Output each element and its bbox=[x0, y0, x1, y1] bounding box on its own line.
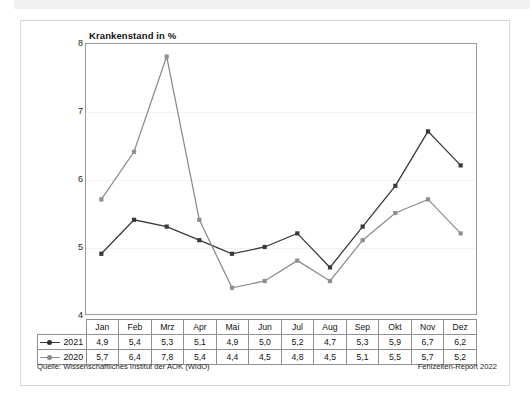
cell-2021-Mai: 4,9 bbox=[216, 335, 249, 350]
col-header-Apr: Apr bbox=[184, 320, 217, 335]
col-header-Sep: Sep bbox=[346, 320, 379, 335]
marker-2020-Mai bbox=[230, 286, 234, 290]
marker-2021-Apr bbox=[197, 238, 201, 242]
cell-2021-Sep: 5,3 bbox=[346, 335, 379, 350]
col-header-Jul: Jul bbox=[281, 320, 314, 335]
cell-2021-Feb: 5,4 bbox=[119, 335, 152, 350]
screenshot-root: Krankenstand in % 45678 JanFebMrzAprMaiJ… bbox=[0, 0, 532, 407]
marker-2020-Feb bbox=[132, 150, 136, 154]
y-tick-7: 7 bbox=[61, 106, 83, 116]
marker-2020-Dez bbox=[459, 231, 463, 235]
cell-2021-Nov: 6,7 bbox=[411, 335, 444, 350]
data-table: JanFebMrzAprMaiJunJulAugSepOktNovDez 202… bbox=[37, 319, 477, 365]
chart-title: Krankenstand in % bbox=[89, 30, 176, 41]
cell-2021-Dez: 6,2 bbox=[444, 335, 477, 350]
marker-2021-Mai bbox=[230, 252, 234, 256]
col-header-Aug: Aug bbox=[314, 320, 347, 335]
marker-2020-Aug bbox=[328, 279, 332, 283]
cell-2021-Mrz: 5,3 bbox=[151, 335, 184, 350]
table-row: 20214,95,45,35,14,95,05,24,75,35,96,76,2 bbox=[38, 335, 477, 350]
marker-2020-Jun bbox=[263, 279, 267, 283]
marker-2020-Nov bbox=[426, 197, 430, 201]
col-header-Mai: Mai bbox=[216, 320, 249, 335]
marker-2020-Okt bbox=[393, 211, 397, 215]
col-header-Mrz: Mrz bbox=[151, 320, 184, 335]
marker-2021-Mrz bbox=[165, 225, 169, 229]
figure-footer: Quelle: Wissenschaftliches Institut der … bbox=[37, 362, 497, 376]
marker-2021-Jul bbox=[295, 231, 299, 235]
marker-2021-Feb bbox=[132, 218, 136, 222]
col-header-Nov: Nov bbox=[411, 320, 444, 335]
series-line-2021 bbox=[101, 131, 460, 267]
table-corner-cell bbox=[38, 320, 87, 335]
col-header-Okt: Okt bbox=[379, 320, 412, 335]
source-note: Quelle: Wissenschaftliches Institut der … bbox=[37, 362, 210, 371]
y-tick-6: 6 bbox=[61, 174, 83, 184]
plot-area bbox=[85, 43, 477, 315]
cell-2021-Okt: 5,9 bbox=[379, 335, 412, 350]
report-note: Fehlzeiten-Report 2022 bbox=[418, 362, 497, 371]
legend-row-2021[interactable]: 2021 bbox=[38, 335, 87, 350]
cell-2021-Jun: 5,0 bbox=[249, 335, 282, 350]
chart-lines bbox=[85, 43, 477, 315]
marker-2021-Jan bbox=[99, 252, 103, 256]
marker-2020-Apr bbox=[197, 218, 201, 222]
marker-2020-Jan bbox=[99, 197, 103, 201]
table-header-row: JanFebMrzAprMaiJunJulAugSepOktNovDez bbox=[38, 320, 477, 335]
marker-2020-Mrz bbox=[165, 55, 169, 59]
col-header-Jun: Jun bbox=[249, 320, 282, 335]
marker-2021-Sep bbox=[361, 225, 365, 229]
y-axis-tick-labels: 45678 bbox=[61, 43, 83, 315]
marker-2020-Jul bbox=[295, 259, 299, 263]
cell-2021-Jan: 4,9 bbox=[86, 335, 119, 350]
cell-2021-Aug: 4,7 bbox=[314, 335, 347, 350]
legend-marker-icon-2021 bbox=[40, 338, 60, 346]
col-header-Feb: Feb bbox=[119, 320, 152, 335]
data-table-wrap: JanFebMrzAprMaiJunJulAugSepOktNovDez 202… bbox=[37, 319, 477, 365]
y-tick-5: 5 bbox=[61, 242, 83, 252]
series-line-2020 bbox=[101, 57, 460, 288]
figure-card: Krankenstand in % 45678 JanFebMrzAprMaiJ… bbox=[20, 20, 510, 386]
legend-label-2021: 2021 bbox=[63, 337, 83, 347]
table-body: 20214,95,45,35,14,95,05,24,75,35,96,76,2… bbox=[38, 335, 477, 365]
y-tick-8: 8 bbox=[61, 38, 83, 48]
marker-2021-Okt bbox=[393, 184, 397, 188]
cell-2021-Apr: 5,1 bbox=[184, 335, 217, 350]
marker-2021-Jun bbox=[263, 245, 267, 249]
legend-marker-icon-2020 bbox=[40, 353, 60, 361]
marker-2021-Aug bbox=[328, 265, 332, 269]
marker-2020-Sep bbox=[361, 238, 365, 242]
col-header-Dez: Dez bbox=[444, 320, 477, 335]
page-top-strip bbox=[14, 0, 530, 9]
legend-label-2020: 2020 bbox=[63, 352, 83, 362]
cell-2021-Jul: 5,2 bbox=[281, 335, 314, 350]
marker-2021-Dez bbox=[459, 163, 463, 167]
marker-2021-Nov bbox=[426, 129, 430, 133]
col-header-Jan: Jan bbox=[86, 320, 119, 335]
